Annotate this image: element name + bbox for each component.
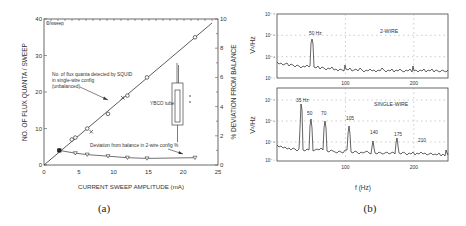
b-bot-xtick-200: 200 [410, 164, 419, 170]
b-bot-ytick-3: 10⁻⁶ [265, 140, 275, 145]
figure: 0 10 20 30 40 0 2 4 6 8 10 0 5 10 15 20 … [0, 0, 466, 226]
peak-label-140: 140 [370, 130, 378, 135]
b-top-ytick-3: 10⁻⁶ [265, 55, 275, 60]
x-tick-25: 25 [215, 169, 222, 175]
dots [189, 95, 191, 103]
panel-a: 0 10 20 30 40 0 2 4 6 8 10 0 5 10 15 20 … [21, 16, 237, 215]
x-tick-0: 0 [42, 169, 46, 175]
peak-label-50: 50 [307, 111, 313, 116]
b-top-xtick-200: 200 [410, 80, 419, 86]
peak-label-210: 210 [418, 138, 426, 143]
y2-tick-10: 10 [220, 16, 227, 22]
y-tick-10: 10 [35, 126, 42, 132]
b-top-ytick-1: 10⁻⁴ [265, 12, 275, 17]
peak-label-50hz: 50 Hz [309, 31, 322, 36]
peak-label-35hz: 35 Hz [296, 98, 309, 103]
annotation-line1: No. of flux quanta detected by SQUID [52, 72, 133, 77]
y2-tick-6: 6 [220, 74, 224, 80]
b-top-ylabel: V²/Hz [249, 36, 256, 54]
x-tick-5: 5 [77, 169, 81, 175]
title-2-wire: 2-WIRE [380, 28, 399, 34]
y-tick-0: 0 [39, 162, 43, 168]
b-bottom-ylabel: V²/Hz [249, 116, 256, 134]
x-tick-15: 15 [145, 169, 152, 175]
title-single-wire: SINGLE-WIRE [374, 101, 409, 107]
spectrum-single-wire [277, 104, 448, 156]
b-bot-xtick-100: 100 [341, 164, 350, 170]
ybco-label: YBCO tube [150, 101, 175, 106]
y2-tick-2: 2 [220, 133, 224, 139]
plot-single-wire: 10⁻⁴ 10⁻⁵ 10⁻⁶ 10⁻⁷ 100 200 35 Hz 50 70 … [265, 88, 448, 170]
deviation-label: Deviation from balance in 2-wire config … [90, 143, 179, 148]
annotation-line3: (unbalanced) [52, 84, 80, 89]
x-tick-10: 10 [110, 169, 117, 175]
b-bot-ytick-2: 10⁻⁵ [265, 119, 275, 124]
b-bot-ytick-1: 10⁻⁴ [265, 98, 275, 103]
annotation-line2: in single-wire config [52, 78, 94, 83]
y-tick-40: 40 [35, 16, 42, 22]
y2-tick-0: 0 [220, 162, 224, 168]
peak-label-105: 105 [346, 116, 354, 121]
peak-label-70: 70 [321, 111, 327, 116]
y-tick-20: 20 [35, 89, 42, 95]
y-tick-30: 30 [35, 53, 42, 59]
spectrum-2-wire [277, 39, 448, 72]
y-axis-label-right: % DEVIATION FROM BALANCE [230, 44, 237, 140]
b-bot-ytick-4: 10⁻⁷ [265, 158, 275, 163]
b-top-ytick-4: 10⁻⁷ [265, 76, 275, 81]
x-tick-20: 20 [180, 169, 187, 175]
panel-b: V²/Hz V²/Hz 10⁻⁴ 10⁻⁵ 10⁻⁶ 10⁻⁷ 100 200 … [249, 12, 448, 215]
x-axis-label: CURRENT SWEEP AMPLITUDE (mA) [78, 183, 184, 190]
caption-a: (a) [98, 202, 111, 215]
y2-tick-8: 8 [220, 45, 224, 51]
b-x-axis-label: f (Hz) [355, 184, 371, 192]
plot-2-wire: 10⁻⁴ 10⁻⁵ 10⁻⁶ 10⁻⁷ 100 200 50 Hz 2-WIRE [265, 12, 448, 86]
corner-label: Φ/sweep [46, 21, 64, 26]
b-top-ytick-2: 10⁻⁵ [265, 33, 275, 38]
y2-tick-4: 4 [220, 104, 224, 110]
y-axis-label: NO. OF FLUX QUANTA / SWEEP [21, 43, 29, 141]
b-top-xtick-100: 100 [341, 80, 350, 86]
caption-b: (b) [364, 202, 377, 215]
peak-label-175: 175 [394, 132, 402, 137]
triangle-markers [73, 152, 197, 161]
